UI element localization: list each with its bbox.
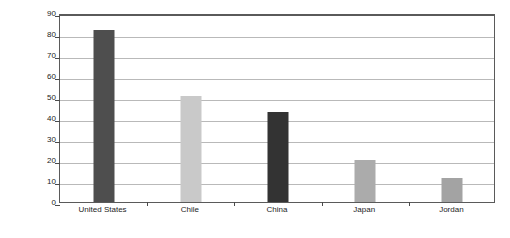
- y-axis-tick-mark: [55, 184, 60, 185]
- y-axis-tick-mark: [55, 79, 60, 80]
- y-axis-tick-mark: [55, 37, 60, 38]
- gridline: [60, 37, 494, 38]
- gridline: [60, 100, 494, 101]
- plot-area: [59, 14, 495, 203]
- plot-inner: [60, 16, 494, 202]
- y-axis-tick-mark: [55, 58, 60, 59]
- y-axis-tick-mark: [55, 100, 60, 101]
- y-axis-tick-labels: 0102030405060708090: [30, 14, 56, 203]
- x-axis-tick-labels: United StatesChileChinaJapanJordan: [59, 206, 495, 226]
- y-axis-tick-mark: [55, 121, 60, 122]
- bar: [93, 30, 114, 202]
- y-axis-tick-mark: [55, 163, 60, 164]
- bar: [355, 160, 376, 202]
- bar-chart: Percentage 0102030405060708090 United St…: [0, 0, 510, 238]
- y-axis-tick-mark: [55, 142, 60, 143]
- x-axis-tick-label: China: [267, 206, 288, 215]
- x-axis-tick-label: United States: [79, 206, 127, 215]
- x-axis-tick-label: Chile: [181, 206, 199, 215]
- gridline: [60, 58, 494, 59]
- x-axis-tick-label: Jordan: [439, 206, 463, 215]
- bar: [442, 178, 463, 202]
- x-axis-tick-label: Japan: [353, 206, 375, 215]
- y-axis-tick-mark: [55, 16, 60, 17]
- bar: [268, 112, 289, 202]
- bar: [180, 96, 201, 202]
- gridline: [60, 79, 494, 80]
